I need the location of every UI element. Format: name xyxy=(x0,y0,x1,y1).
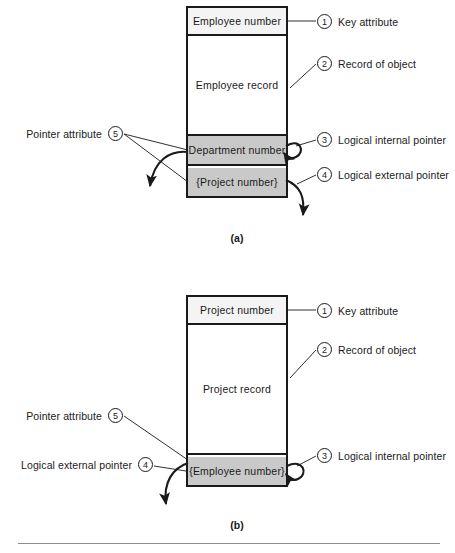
callout-label-b-5: Pointer attribute xyxy=(16,410,102,422)
callout-marker-a-3: 3 xyxy=(317,132,332,147)
panel-caption-a: (a) xyxy=(187,232,287,244)
segment-label: Employee record xyxy=(196,79,278,91)
external-pointer-arc-a xyxy=(286,180,303,215)
segment-external-pointer-a: {Project number} xyxy=(188,168,286,196)
callout-number: 4 xyxy=(322,170,327,180)
callout-marker-a-2: 2 xyxy=(317,56,332,71)
leader-a-2 xyxy=(290,64,316,88)
internal-pointer-loop-b xyxy=(286,464,304,480)
leader-a-5-lower xyxy=(124,134,188,182)
leader-a-5-upper xyxy=(124,134,188,150)
callout-number: 1 xyxy=(322,17,327,27)
callout-number: 2 xyxy=(322,59,327,69)
segment-record-body-a: Employee record xyxy=(188,36,286,136)
panel-caption-b: (b) xyxy=(187,519,287,531)
callout-number: 3 xyxy=(322,135,327,145)
callout-label-a-3: Logical internal pointer xyxy=(338,134,446,146)
footer-rule xyxy=(18,543,440,544)
pointer-attribute-arc-a xyxy=(150,152,188,186)
callout-number: 3 xyxy=(322,451,327,461)
callout-marker-b-1: 1 xyxy=(317,303,332,318)
callout-label-a-2: Record of object xyxy=(338,58,416,70)
callout-marker-a-4: 4 xyxy=(317,167,332,182)
callout-marker-a-1: 1 xyxy=(317,14,332,29)
callout-marker-a-5: 5 xyxy=(108,126,123,141)
leader-a-4 xyxy=(297,175,316,184)
callout-label-b-4: Logical external pointer xyxy=(10,459,132,471)
leader-b-4 xyxy=(154,466,186,471)
callout-label-b-3: Logical internal pointer xyxy=(338,450,446,462)
callout-label-a-1: Key attribute xyxy=(338,16,398,28)
segment-record-body-b: Project record xyxy=(188,325,286,455)
segment-label: {Project number} xyxy=(196,176,277,188)
segment-label: Project number xyxy=(200,304,274,316)
segment-internal-pointer-a: Department number xyxy=(188,136,286,166)
callout-label-a-5: Pointer attribute xyxy=(16,128,102,140)
callout-marker-b-4: 4 xyxy=(138,457,153,472)
segment-label: {Employee number} xyxy=(189,465,285,477)
segment-key-attribute-b: Project number xyxy=(188,297,286,325)
callout-marker-b-5: 5 xyxy=(108,408,123,423)
segment-external-pointer-b: {Employee number} xyxy=(188,457,286,485)
callout-number: 5 xyxy=(113,411,118,421)
figure-canvas: Employee number Employee record Departme… xyxy=(0,0,455,553)
callout-number: 4 xyxy=(143,460,148,470)
callout-number: 5 xyxy=(113,129,118,139)
callout-number: 2 xyxy=(322,345,327,355)
callout-label-b-2: Record of object xyxy=(338,344,416,356)
segment-label: Department number xyxy=(189,144,286,156)
segment-key-attribute-a: Employee number xyxy=(188,8,286,36)
callout-marker-b-3: 3 xyxy=(317,448,332,463)
segment-label: Employee number xyxy=(193,15,281,27)
leader-b-5 xyxy=(124,416,188,460)
leader-b-3 xyxy=(297,456,316,466)
callout-label-b-1: Key attribute xyxy=(338,305,398,317)
segment-label: Project record xyxy=(203,383,271,395)
callout-label-a-4: Logical external pointer xyxy=(338,169,449,181)
callout-marker-b-2: 2 xyxy=(317,342,332,357)
leader-a-3 xyxy=(296,140,316,146)
external-pointer-arc-b xyxy=(165,463,188,504)
callout-number: 1 xyxy=(322,306,327,316)
leader-b-2 xyxy=(290,350,316,378)
